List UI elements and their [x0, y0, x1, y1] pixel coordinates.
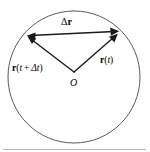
- vector-symbol-r: r: [67, 16, 71, 27]
- paren-close: ): [39, 63, 42, 73]
- label-delta-r: Δr: [61, 17, 72, 27]
- vector-delta-r: [30, 32, 115, 36]
- figure-root: Δr r(t + Δt) r(t) O: [0, 0, 150, 152]
- label-origin-O: O: [70, 78, 77, 88]
- label-r-t-plus-delta-t: r(t + Δt): [12, 64, 43, 74]
- arrowhead-delta-r-right: [110, 28, 119, 36]
- label-r-t: r(t): [100, 56, 113, 66]
- vector-diagram: [0, 0, 150, 152]
- bottom-rule: [3, 149, 146, 150]
- paren-close: ): [110, 55, 113, 65]
